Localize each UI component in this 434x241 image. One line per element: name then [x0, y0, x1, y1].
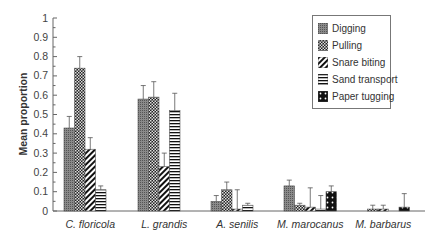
- bar: [368, 209, 379, 211]
- bar: [399, 207, 410, 211]
- bar: [85, 149, 96, 211]
- legend-label: Sand transport: [332, 74, 398, 85]
- y-tick-label: 0.1: [33, 185, 48, 197]
- bar: [138, 99, 149, 211]
- y-axis-label: Mean proportion: [17, 69, 29, 159]
- legend-swatch: [318, 40, 328, 51]
- legend-label: Pulling: [332, 40, 362, 51]
- y-tick-label: 0.6: [33, 89, 48, 101]
- bar: [284, 186, 295, 211]
- bar: [64, 128, 75, 211]
- legend-label: Digging: [332, 23, 366, 34]
- legend-swatch: [318, 91, 328, 102]
- bar: [295, 205, 306, 211]
- bar: [211, 201, 222, 211]
- y-tick-label: 0.5: [33, 108, 48, 120]
- legend-swatch: [318, 23, 328, 34]
- y-tick-label: 0.7: [33, 69, 48, 81]
- bar: [305, 207, 316, 211]
- y-tick-label: 0: [42, 205, 48, 217]
- bar: [159, 167, 170, 211]
- legend-item: Paper tugging: [318, 89, 394, 104]
- legend: DiggingPullingSnare bitingSand transport…: [312, 15, 391, 109]
- bar: [232, 209, 243, 211]
- y-tick-label: 0.4: [33, 127, 48, 139]
- bar: [316, 209, 327, 211]
- legend-item: Snare biting: [318, 55, 385, 70]
- legend-swatch: [318, 57, 328, 68]
- x-tick-label: A. senilis: [215, 218, 259, 230]
- legend-item: Sand transport: [318, 72, 398, 87]
- y-tick-label: 0.8: [33, 50, 48, 62]
- bar: [326, 192, 337, 211]
- y-tick-label: 0.3: [33, 147, 48, 159]
- x-tick-label: M. marocanus: [277, 218, 344, 230]
- legend-label: Snare biting: [332, 57, 385, 68]
- y-tick-label: 0.9: [33, 31, 48, 43]
- bar: [170, 111, 181, 211]
- bar: [222, 190, 233, 211]
- bar: [149, 97, 160, 211]
- bar: [96, 190, 107, 211]
- y-tick-label: 1: [42, 12, 48, 24]
- legend-item: Digging: [318, 21, 366, 36]
- bar: [75, 68, 86, 211]
- legend-label: Paper tugging: [332, 91, 394, 102]
- legend-swatch: [318, 74, 328, 85]
- x-axis-labels: C. floricolaL. grandisA. senilisM. maroc…: [65, 218, 412, 230]
- x-tick-label: M. barbarus: [355, 218, 412, 230]
- y-tick-label: 0.2: [33, 166, 48, 178]
- bar: [243, 205, 254, 211]
- legend-item: Pulling: [318, 38, 362, 53]
- bar: [378, 209, 389, 211]
- x-tick-label: L. grandis: [141, 218, 188, 230]
- x-tick-label: C. floricola: [65, 218, 115, 230]
